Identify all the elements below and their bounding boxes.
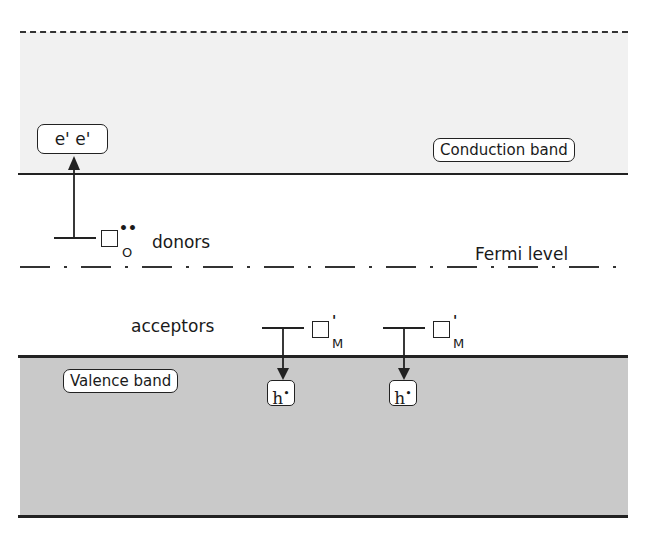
electrons-box: e' e' bbox=[37, 124, 108, 154]
fermi-level-label: Fermi level bbox=[475, 244, 568, 264]
hole-box-1: h• bbox=[267, 380, 295, 406]
acceptor-arrow-head-2 bbox=[398, 368, 410, 380]
donor-subscript: O bbox=[122, 245, 132, 260]
hole-symbol-2: h bbox=[394, 388, 405, 408]
acceptors-label: acceptors bbox=[131, 316, 214, 336]
oxygen-vacancy-icon bbox=[101, 230, 118, 247]
acceptor-subscript-1: M bbox=[332, 336, 343, 351]
hole-symbol-1: h bbox=[272, 388, 283, 408]
valence-band-label: Valence band bbox=[63, 369, 178, 393]
donor-arrow-head bbox=[68, 156, 80, 170]
diagram-lines bbox=[0, 0, 647, 539]
hole-charge-2: • bbox=[405, 387, 412, 400]
donor-charge-superscript: •• bbox=[119, 220, 137, 236]
acceptor-charge-superscript-2: ' bbox=[453, 312, 457, 328]
acceptor-subscript-2: M bbox=[453, 336, 464, 351]
metal-vacancy-icon-2 bbox=[433, 321, 450, 338]
acceptor-arrow-head-1 bbox=[277, 368, 289, 380]
hole-box-2: h• bbox=[389, 380, 417, 406]
conduction-band-label: Conduction band bbox=[433, 138, 575, 162]
metal-vacancy-icon-1 bbox=[312, 321, 329, 338]
hole-charge-1: • bbox=[283, 387, 290, 400]
acceptor-charge-superscript-1: ' bbox=[332, 312, 336, 328]
donors-label: donors bbox=[152, 232, 210, 252]
